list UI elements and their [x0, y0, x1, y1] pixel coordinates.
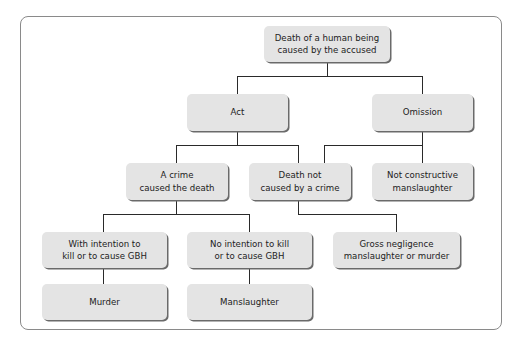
connector: [298, 145, 299, 163]
connector: [237, 76, 238, 94]
node-omission: Omission: [372, 94, 473, 131]
node-gross-negligence: Gross negligence manslaughter or murder: [333, 232, 460, 268]
connector: [298, 214, 397, 215]
node-act: Act: [187, 94, 288, 131]
connector: [324, 145, 423, 146]
connector: [396, 214, 397, 232]
connector: [103, 214, 104, 232]
connector: [176, 145, 177, 163]
connector: [324, 145, 325, 163]
connector: [176, 145, 299, 146]
connector: [103, 268, 104, 284]
node-murder: Murder: [42, 284, 167, 320]
connector: [249, 268, 250, 284]
connector: [249, 214, 250, 232]
node-intention: With intention to kill or to cause GBH: [42, 232, 167, 268]
connector: [103, 214, 250, 215]
node-no-intention: No intention to kill or to cause GBH: [187, 232, 312, 268]
node-manslaughter: Manslaughter: [187, 284, 312, 320]
node-not-constructive: Not constructive manslaughter: [372, 163, 473, 200]
connector: [237, 131, 238, 145]
connector: [298, 200, 299, 214]
node-root: Death of a human being caused by the acc…: [264, 26, 390, 62]
connector: [422, 131, 423, 163]
connector: [176, 200, 177, 214]
connector: [237, 76, 423, 77]
connector: [327, 62, 328, 76]
node-crime-caused-death: A crime caused the death: [126, 163, 228, 200]
node-death-not-crime: Death not caused by a crime: [249, 163, 351, 200]
connector: [422, 76, 423, 94]
